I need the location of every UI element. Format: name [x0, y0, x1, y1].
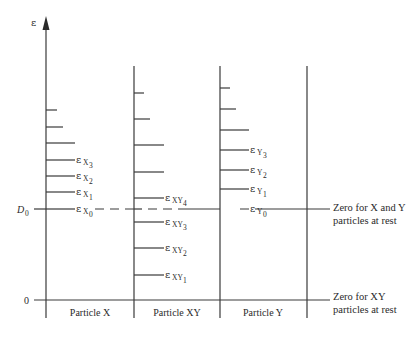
svg-text:2: 2: [183, 249, 187, 258]
svg-text:XY: XY: [172, 273, 183, 282]
d0-label: D 0: [16, 204, 29, 218]
svg-text:3: 3: [263, 151, 267, 160]
axis-arrow-icon: [43, 16, 50, 30]
zero-label: 0: [24, 295, 29, 306]
svg-text:ε: ε: [165, 192, 170, 203]
zero-note-line2: particles at rest: [333, 304, 397, 315]
particle-xy-labels: ε XY 4 ε XY 3 ε XY 2 ε XY 1: [165, 192, 187, 285]
label-eps-y1: ε Y 1: [250, 183, 267, 199]
svg-text:XY: XY: [172, 220, 183, 229]
label-eps-xy2: ε XY 2: [165, 242, 187, 258]
column-label-particle-xy: Particle XY: [153, 307, 201, 318]
svg-text:0: 0: [25, 209, 29, 218]
svg-text:XY: XY: [172, 246, 183, 255]
particle-x-labels: ε X 3 ε X 2 ε X 1 ε X 0: [76, 154, 93, 219]
energy-axis-label: ε: [31, 17, 36, 28]
label-eps-x0: ε X 0: [76, 203, 93, 219]
label-eps-y0: ε Y 0: [250, 203, 267, 219]
label-eps-x3: ε X 3: [76, 154, 93, 170]
column-label-particle-x: Particle X: [70, 307, 111, 318]
svg-text:ε: ε: [76, 186, 81, 197]
svg-text:1: 1: [263, 190, 267, 199]
svg-text:ε: ε: [165, 269, 170, 280]
label-eps-y2: ε Y 2: [250, 164, 267, 180]
particle-x-levels: [46, 110, 75, 209]
svg-text:D: D: [16, 204, 25, 215]
label-eps-x1: ε X 1: [76, 186, 93, 202]
svg-text:0: 0: [263, 210, 267, 219]
svg-text:2: 2: [263, 171, 267, 180]
column-label-particle-y: Particle Y: [243, 307, 283, 318]
svg-text:3: 3: [183, 223, 187, 232]
svg-text:ε: ε: [165, 216, 170, 227]
svg-text:ε: ε: [76, 203, 81, 214]
svg-text:0: 0: [89, 210, 93, 219]
particle-y-levels: [220, 88, 249, 189]
particle-xy-levels: [134, 93, 164, 275]
svg-text:ε: ε: [165, 242, 170, 253]
zero-note-line1: Zero for XY: [333, 291, 386, 302]
particle-y-labels: ε Y 3 ε Y 2 ε Y 1 ε Y 0: [250, 144, 267, 219]
svg-text:3: 3: [89, 161, 93, 170]
label-eps-y3: ε Y 3: [250, 144, 267, 160]
svg-text:ε: ε: [76, 154, 81, 165]
svg-text:ε: ε: [76, 170, 81, 181]
svg-text:4: 4: [183, 199, 187, 208]
svg-text:XY: XY: [172, 196, 183, 205]
svg-text:ε: ε: [250, 203, 255, 214]
xy-rest-note-line1: Zero for X and Y: [333, 202, 406, 213]
svg-text:1: 1: [183, 276, 187, 285]
svg-text:ε: ε: [250, 183, 255, 194]
energy-level-diagram: ε 0 D 0 ε X 3 ε X 2 ε X 1: [0, 0, 418, 339]
svg-text:1: 1: [89, 193, 93, 202]
label-eps-xy4: ε XY 4: [165, 192, 187, 208]
label-eps-x2: ε X 2: [76, 170, 93, 186]
svg-text:ε: ε: [250, 144, 255, 155]
svg-text:ε: ε: [250, 164, 255, 175]
xy-rest-note-line2: particles at rest: [333, 215, 397, 226]
label-eps-xy3: ε XY 3: [165, 216, 187, 232]
svg-text:2: 2: [89, 177, 93, 186]
label-eps-xy1: ε XY 1: [165, 269, 187, 285]
